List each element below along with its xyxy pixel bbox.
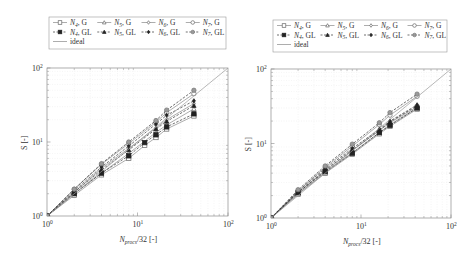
square-filled-marker [142, 140, 146, 144]
legend-label: ideal [70, 37, 85, 46]
legend-label: N4, GL [293, 31, 316, 41]
y-tick-label: 102 [32, 63, 43, 73]
legend-label: N7, GL [424, 31, 447, 41]
circle-filled-marker [377, 121, 381, 125]
legend: N4, GN5, GN6, GN7, GN4, GLN5, GLN6, GLN7… [49, 17, 226, 49]
y-axis-label: S [-] [244, 137, 253, 152]
circle-filled-marker [388, 110, 392, 114]
legend-label: N4, G [69, 18, 88, 28]
circle-filled-marker [350, 142, 354, 146]
circle-filled-marker [191, 30, 195, 34]
circle-open-marker [413, 24, 417, 28]
square-filled-marker [192, 112, 196, 116]
circle-filled-marker [164, 108, 168, 112]
legend-label: N6, G [380, 21, 399, 31]
y-tick-label: 102 [256, 64, 267, 74]
chart-panel-right: N4, GN5, GN6, GN7, GN4, GLN5, GLN6, GLN7… [244, 20, 457, 247]
x-tick-label: 101 [133, 219, 144, 229]
square-open-marker [58, 21, 62, 25]
circle-filled-marker [99, 161, 103, 165]
legend: N4, GN5, GN6, GN7, GN4, GLN5, GLN6, GLN7… [273, 20, 447, 52]
legend-label: ideal [294, 40, 309, 49]
x-tick-label: 102 [446, 221, 457, 231]
circle-filled-marker [127, 140, 131, 144]
legend-label: N5, G [113, 18, 132, 28]
circle-filled-marker [413, 33, 417, 37]
x-axis-label: Nprocs/32 [-] [119, 235, 158, 245]
chart-panel-left: N4, GN5, GN6, GN7, GN4, GLN5, GLN6, GLN7… [20, 17, 234, 245]
legend-label: N7, G [202, 18, 221, 28]
square-filled-marker [164, 125, 168, 129]
y-axis-label: S [-] [20, 135, 29, 150]
speedup-figure: N4, GN5, GN6, GN7, GN4, GLN5, GLN6, GLN7… [0, 0, 475, 257]
circle-filled-marker [323, 164, 327, 168]
square-filled-marker [58, 30, 62, 34]
figure: N4, GN5, GN6, GN7, GN4, GLN5, GLN6, GLN7… [0, 0, 475, 257]
legend-label: N7, G [424, 21, 443, 31]
x-tick-label: 100 [266, 221, 277, 231]
legend-label: N6, G [158, 18, 177, 28]
legend-label: N5, GL [113, 28, 136, 38]
legend-label: N4, GL [69, 28, 92, 38]
y-tick-label: 101 [32, 137, 43, 147]
legend-label: N4, G [293, 21, 312, 31]
square-open-marker [282, 24, 286, 28]
x-tick-label: 100 [42, 219, 53, 229]
x-axis-label: Nprocs/32 [-] [342, 237, 381, 247]
square-filled-marker [154, 133, 158, 137]
circle-filled-marker [192, 88, 196, 92]
x-tick-label: 102 [223, 219, 234, 229]
square-filled-marker [282, 33, 286, 37]
legend-label: N6, GL [380, 31, 403, 41]
legend-label: N7, GL [202, 28, 225, 38]
legend-label: N5, GL [337, 31, 360, 41]
circle-filled-marker [72, 187, 76, 191]
x-tick-label: 101 [356, 221, 367, 231]
circle-filled-marker [154, 118, 158, 122]
legend-label: N6, GL [158, 28, 181, 38]
legend-label: N5, G [337, 21, 356, 31]
circle-open-marker [191, 21, 195, 25]
circle-filled-marker [296, 187, 300, 191]
square-filled-marker [127, 154, 131, 158]
y-tick-label: 101 [256, 139, 267, 149]
